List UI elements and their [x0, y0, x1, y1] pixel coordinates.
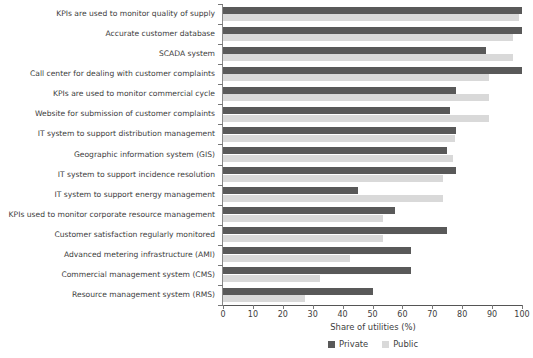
x-tick-mark	[253, 305, 254, 309]
legend-label: Private	[339, 339, 368, 349]
bar-private	[223, 7, 522, 14]
legend-entry: Public	[382, 339, 418, 349]
legend-swatch	[328, 341, 335, 348]
category-label: KPIs are used to monitor commercial cycl…	[53, 89, 215, 98]
y-tick-mark	[218, 24, 223, 25]
x-tick-label: 40	[338, 310, 348, 320]
bar-private	[223, 47, 486, 54]
x-tick-mark	[313, 305, 314, 309]
category-label: Commercial management system (CMS)	[61, 270, 215, 279]
bar-private	[223, 227, 447, 234]
category-label: IT system to support incidence resolutio…	[58, 170, 215, 179]
legend-label: Public	[393, 339, 418, 349]
x-tick-mark	[432, 305, 433, 309]
bar-public	[223, 135, 455, 142]
x-tick-label: 100	[514, 310, 529, 320]
bar-public	[223, 275, 320, 282]
category-label: Call center for dealing with customer co…	[30, 69, 215, 78]
bar-public	[223, 14, 519, 21]
x-tick-mark	[343, 305, 344, 309]
x-tick-label: 70	[427, 310, 437, 320]
chart-legend: PrivatePublic	[223, 339, 523, 349]
bar-private	[223, 127, 456, 134]
category-label: IT system to support energy management	[54, 190, 215, 199]
category-label: IT system to support distribution manage…	[38, 129, 215, 138]
x-tick-mark	[283, 305, 284, 309]
bar-private	[223, 27, 522, 34]
y-tick-mark	[218, 144, 223, 145]
bar-private	[223, 187, 358, 194]
y-tick-mark	[218, 285, 223, 286]
category-label: Resource management system (RMS)	[72, 290, 215, 299]
category-label: KPIs are used to monitor quality of supp…	[56, 9, 215, 18]
bar-private	[223, 107, 450, 114]
x-tick-mark	[373, 305, 374, 309]
y-tick-mark	[218, 225, 223, 226]
bar-private	[223, 288, 373, 295]
bar-public	[223, 54, 513, 61]
category-axis-labels: KPIs are used to monitor quality of supp…	[0, 0, 219, 310]
y-tick-mark	[218, 44, 223, 45]
category-label: KPIs used to monitor corporate resource …	[9, 210, 215, 219]
bar-private	[223, 87, 456, 94]
x-tick-mark	[492, 305, 493, 309]
x-tick-mark	[522, 305, 523, 309]
y-tick-mark	[218, 84, 223, 85]
x-tick-label: 30	[308, 310, 318, 320]
x-tick-label: 10	[248, 310, 258, 320]
x-tick-label: 20	[278, 310, 288, 320]
bar-public	[223, 235, 383, 242]
y-tick-mark	[218, 185, 223, 186]
x-tick-label: 80	[457, 310, 467, 320]
y-tick-mark	[218, 305, 223, 306]
bar-public	[223, 255, 350, 262]
category-label: Website for submission of customer compl…	[35, 109, 215, 118]
bar-public	[223, 195, 443, 202]
bar-public	[223, 34, 513, 41]
x-axis-title: Share of utilities (%)	[223, 322, 523, 332]
bar-public	[223, 295, 305, 302]
bar-private	[223, 147, 447, 154]
x-tick-label: 90	[487, 310, 497, 320]
y-tick-mark	[218, 104, 223, 105]
y-tick-mark	[218, 165, 223, 166]
y-tick-mark	[218, 4, 223, 5]
y-tick-mark	[218, 64, 223, 65]
x-tick-label: 60	[397, 310, 407, 320]
x-tick-label: 50	[367, 310, 377, 320]
x-tick-mark	[223, 305, 224, 309]
bar-private	[223, 67, 522, 74]
category-label: SCADA system	[159, 49, 215, 58]
x-tick-mark	[402, 305, 403, 309]
bar-private	[223, 267, 411, 274]
legend-entry: Private	[328, 339, 368, 349]
y-tick-mark	[218, 124, 223, 125]
category-label: Customer satisfaction regularly monitore…	[54, 230, 215, 239]
bar-private	[223, 247, 411, 254]
bar-public	[223, 155, 453, 162]
bar-public	[223, 215, 383, 222]
bar-public	[223, 115, 489, 122]
bar-private	[223, 167, 456, 174]
category-label: Geographic information system (GIS)	[74, 150, 215, 159]
bar-public	[223, 74, 489, 81]
plot-area	[223, 4, 522, 305]
bar-chart-figure: KPIs are used to monitor quality of supp…	[0, 0, 533, 358]
x-tick-label: 0	[220, 310, 225, 320]
bar-public	[223, 175, 443, 182]
y-tick-mark	[218, 205, 223, 206]
y-tick-mark	[218, 245, 223, 246]
x-tick-mark	[462, 305, 463, 309]
bar-public	[223, 94, 489, 101]
category-label: Advanced metering infrastructure (AMI)	[64, 250, 215, 259]
bar-private	[223, 207, 395, 214]
category-label: Accurate customer database	[106, 29, 215, 38]
legend-swatch	[382, 341, 389, 348]
y-tick-mark	[218, 265, 223, 266]
